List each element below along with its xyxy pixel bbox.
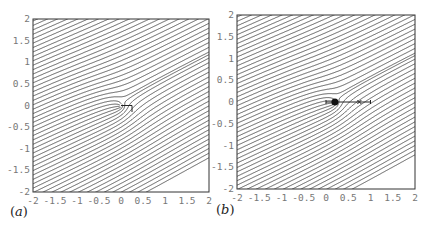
y-tick-label: -0.5: [211, 118, 234, 129]
y-tick-label: 2: [228, 9, 234, 20]
y-tick-label: 1: [228, 53, 234, 64]
singularity-dot-marker: [331, 99, 338, 106]
y-tick-label: 0.5: [217, 74, 234, 85]
x-tick-label: -1: [276, 192, 288, 203]
x-tick-label: 2: [412, 192, 418, 203]
panel-letter-b: b: [221, 202, 229, 217]
x-tick-label: 0.5: [340, 192, 357, 203]
x-tick-label: 0: [323, 192, 329, 203]
panel-label-b: (b): [216, 202, 234, 217]
x-tick-label: 1.5: [384, 192, 401, 203]
y-tick-label: 1.5: [217, 31, 234, 42]
panel-b: -2-1.5-1-0.500.511.5221.510.50-0.5-1-1.5…: [0, 0, 430, 235]
x-tick-label: -1.5: [248, 192, 271, 203]
x-tick-label: -0.5: [292, 192, 315, 203]
x-tick-label: 1: [368, 192, 374, 203]
y-tick-label: -1: [223, 140, 235, 151]
y-tick-label: -2: [223, 183, 234, 194]
streamline-plot-b: -2-1.5-1-0.500.511.5221.510.50-0.5-1-1.5…: [0, 0, 430, 235]
y-tick-label: 0: [228, 96, 234, 107]
y-tick-label: -1.5: [211, 161, 234, 172]
